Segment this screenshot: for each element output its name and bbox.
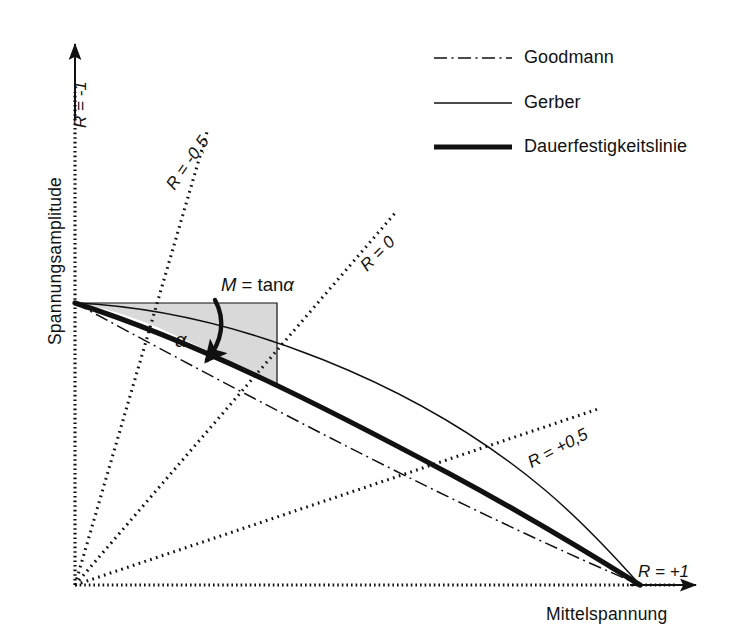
angle-alpha-label: α xyxy=(175,330,186,350)
ray-r-minus-0-5 xyxy=(75,132,207,585)
slope-alpha-symbol: α xyxy=(283,274,294,295)
slope-equals-tan: = tan xyxy=(236,274,283,295)
ray-label-r-plus-1: R = +1 xyxy=(638,563,689,580)
ray-r-plus-0-5 xyxy=(75,409,598,585)
diagram-canvas xyxy=(0,0,736,641)
ray-r-0 xyxy=(75,212,396,585)
legend-label-goodmann: Goodmann xyxy=(524,48,614,66)
haigh-diagram-figure: Spannungsamplitude Mittelspannung R = -1… xyxy=(0,0,736,641)
legend-label-gerber: Gerber xyxy=(524,93,581,111)
x-axis-title: Mittelspannung xyxy=(546,606,668,624)
legend-label-dauerfestigkeitslinie: Dauerfestigkeitslinie xyxy=(524,137,687,155)
slope-m-symbol: M xyxy=(221,274,236,295)
slope-annotation: M = tanα xyxy=(221,276,294,295)
ray-label-r-minus-1: R = -1 xyxy=(72,81,89,128)
y-axis-title: Spannungsamplitude xyxy=(47,177,65,345)
